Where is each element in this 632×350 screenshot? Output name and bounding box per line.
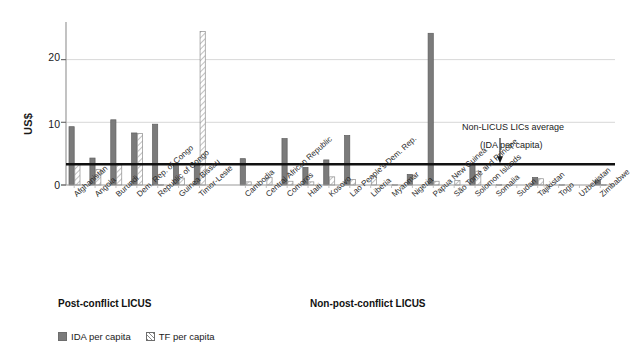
group-title-non-post-conflict: Non-post-conflict LICUS [310,298,426,309]
legend-swatch-ida-icon [58,332,67,341]
chart-legend: IDA per capita TF per capita [58,331,215,342]
group-title-post-conflict: Post-conflict LICUS [58,298,151,309]
legend-swatch-tf-icon [146,332,155,341]
bars-ida-per-capita [69,33,600,185]
legend-item-tf: TF per capita [146,331,215,342]
legend-label-tf: TF per capita [159,331,215,342]
gridlines [66,60,615,123]
legend-label-ida: IDA per capita [71,331,131,342]
reference-line-label-line1: Non-LICUS LICs average [462,122,564,132]
legend-item-ida: IDA per capita [58,331,131,342]
